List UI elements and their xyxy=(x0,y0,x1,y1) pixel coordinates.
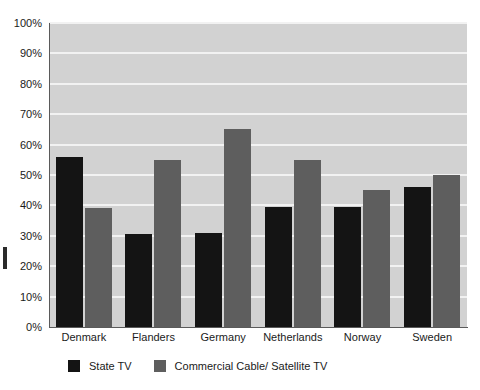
x-axis: DenmarkFlandersGermanyNetherlandsNorwayS… xyxy=(49,330,467,348)
bar-netherlands-series-0 xyxy=(265,207,292,327)
y-axis-tick-label: 20% xyxy=(20,261,42,272)
bar-flanders-series-1 xyxy=(154,160,181,327)
y-axis-tick-label: 30% xyxy=(20,230,42,241)
legend-label: Commercial Cable/ Satellite TV xyxy=(175,360,328,372)
x-axis-tick-label: Norway xyxy=(344,330,381,344)
bar-denmark-series-1 xyxy=(85,208,112,327)
chart-legend: State TVCommercial Cable/ Satellite TV xyxy=(68,360,327,372)
bar-germany-series-0 xyxy=(195,233,222,327)
y-axis-tick-label: 50% xyxy=(20,170,42,181)
bar-germany-series-1 xyxy=(224,129,251,327)
bar-flanders-series-0 xyxy=(125,234,152,327)
bar-group xyxy=(328,23,398,327)
y-axis-line xyxy=(49,23,50,328)
y-axis-tick-label: 100% xyxy=(14,18,42,29)
x-axis-tick-label: Flanders xyxy=(132,330,175,344)
bar-group xyxy=(49,23,119,327)
y-axis: 0%10%20%30%40%50%60%70%80%90%100% xyxy=(0,23,47,327)
bar-netherlands-series-1 xyxy=(294,160,321,327)
x-axis-tick-label: Denmark xyxy=(62,330,107,344)
bar-chart-figure: 0%10%20%30%40%50%60%70%80%90%100% Denmar… xyxy=(0,0,480,390)
legend-label: State TV xyxy=(89,360,132,372)
bar-sweden-series-0 xyxy=(404,187,431,327)
y-axis-tick-label: 40% xyxy=(20,200,42,211)
legend-item: Commercial Cable/ Satellite TV xyxy=(154,360,328,372)
legend-swatch-icon xyxy=(154,360,166,372)
plot-area xyxy=(49,23,467,327)
bar-norway-series-1 xyxy=(363,190,390,327)
bar-group xyxy=(188,23,258,327)
x-axis-tick-label: Netherlands xyxy=(263,330,322,344)
y-axis-tick-label: 10% xyxy=(20,291,42,302)
x-axis-tick-label: Sweden xyxy=(412,330,452,344)
bar-norway-series-0 xyxy=(334,207,361,327)
y-axis-tick-label: 80% xyxy=(20,78,42,89)
y-axis-tick-label: 70% xyxy=(20,109,42,120)
legend-item: State TV xyxy=(68,360,132,372)
bar-group xyxy=(397,23,467,327)
y-axis-tick-label: 90% xyxy=(20,48,42,59)
bar-sweden-series-1 xyxy=(433,175,460,327)
bar-denmark-series-0 xyxy=(56,157,83,327)
legend-swatch-icon xyxy=(68,360,80,372)
x-axis-line xyxy=(49,327,468,328)
bar-group xyxy=(119,23,189,327)
x-axis-tick-label: Germany xyxy=(201,330,246,344)
bar-group xyxy=(258,23,328,327)
y-axis-tick-label: 60% xyxy=(20,139,42,150)
y-axis-tick-label: 0% xyxy=(26,322,42,333)
